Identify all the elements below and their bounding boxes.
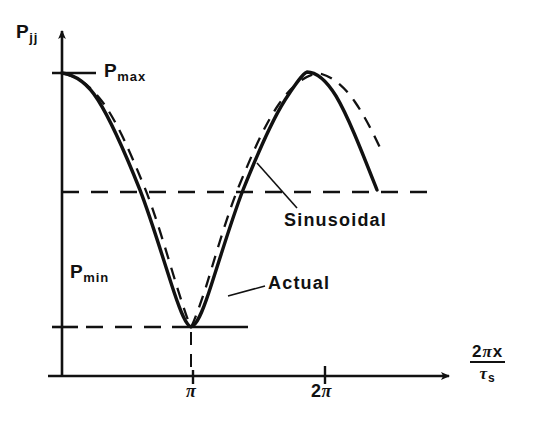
sinusoidal-curve bbox=[62, 73, 382, 327]
y-axis-title: Pjj bbox=[16, 22, 38, 44]
y-axis-title-text: P bbox=[16, 21, 29, 42]
sinusoidal-callout-label: Sinusoidal bbox=[284, 211, 387, 229]
x-axis-title: 2πx τs bbox=[470, 343, 505, 384]
sinusoidal-leader-line bbox=[257, 163, 297, 208]
x-axis-title-tau: τ bbox=[479, 364, 488, 383]
x-axis-title-x: x bbox=[493, 342, 503, 361]
x-tick-label-pi: π bbox=[186, 382, 196, 400]
x-axis-title-denominator: τs bbox=[470, 363, 505, 384]
pmax-label-subscript: max bbox=[117, 69, 146, 84]
x-tick-label-2pi: 2π bbox=[311, 382, 332, 400]
x-tick-2pi-pi: π bbox=[322, 381, 332, 401]
x-axis-title-numerator: 2πx bbox=[470, 343, 505, 363]
reference-lines bbox=[52, 73, 436, 327]
figure-canvas: Pjj Pmax Pmin Sinusoidal Actual π 2π 2πx… bbox=[0, 0, 560, 424]
pmin-label: Pmin bbox=[70, 262, 109, 284]
actual-callout-label: Actual bbox=[268, 274, 330, 292]
y-axis-title-subscript: jj bbox=[29, 30, 38, 45]
pmax-label: Pmax bbox=[104, 61, 146, 83]
pmin-label-subscript: min bbox=[83, 270, 109, 285]
actual-leader-line bbox=[228, 286, 265, 296]
x-axis-title-tau-subscript: s bbox=[488, 371, 496, 385]
x-axis-title-pi: π bbox=[482, 342, 492, 361]
x-tick-2pi-prefix: 2 bbox=[311, 381, 322, 401]
x-axis-title-two: 2 bbox=[472, 342, 482, 361]
pmin-label-text: P bbox=[70, 261, 83, 282]
pmax-label-text: P bbox=[104, 60, 117, 81]
